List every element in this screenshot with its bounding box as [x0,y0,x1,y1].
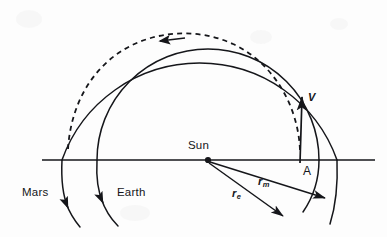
sun-label: Sun [188,140,209,152]
point-a-label: A [303,165,311,177]
mars-label: Mars [22,187,48,199]
radius-earth-symbol: r [232,187,236,199]
velocity-vector [300,97,302,163]
radius-earth-subscript: e [237,192,241,201]
diagram-page: Sun Mars Earth A V rm re [0,0,387,237]
radius-earth-label: re [232,184,241,201]
velocity-label: V [308,92,315,103]
radius-earth-vector [209,163,283,216]
radius-mars-symbol: r [258,175,262,187]
orbit-diagram [0,0,387,237]
earth-label: Earth [117,187,146,199]
earth-orbit-arc [97,49,319,226]
radius-mars-subscript: m [263,180,270,189]
radius-mars-label: rm [258,172,269,189]
